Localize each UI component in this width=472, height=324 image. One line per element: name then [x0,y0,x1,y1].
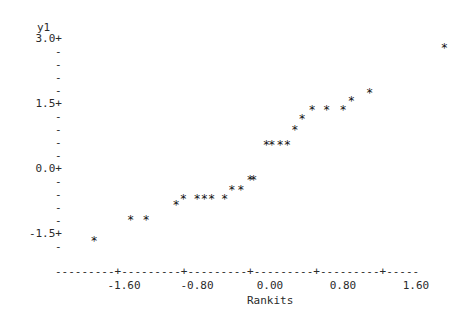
x-axis-rule: ---------+---------+---------+---------+… [55,266,419,277]
data-point: * [237,185,244,196]
data-point: * [228,185,235,196]
data-point: * [142,215,149,226]
data-point: * [441,43,448,54]
y-tick-minor-1-2: - [55,124,62,135]
x-axis-title: Rankits [247,295,293,306]
x-tick-1: -0.80 [180,280,213,291]
y-tick-minor-1-1: - [55,111,62,122]
x-tick-3: 0.80 [330,280,357,291]
x-tick-2: 0.00 [257,280,284,291]
data-point: * [221,194,228,205]
y-tick-minor-2-2: - [55,189,62,200]
y-tick-major-0: 3.0+ [0,33,62,44]
y-tick-major-1: 1.5+ [0,98,62,109]
y-tick-minor-0-4: - [55,85,62,96]
data-point: * [268,140,275,151]
data-point: * [127,215,134,226]
y-tick-minor-2-3: - [55,202,62,213]
rankit-plot-canvas: y13.0+----1.5+----0.0+-----1.5+---------… [0,0,472,324]
y-tick-minor-2-1: - [55,176,62,187]
data-point: * [348,96,355,107]
y-tick-minor-0-3: - [55,72,62,83]
y-tick-major-2: 0.0+ [0,163,62,174]
data-point: * [277,140,284,151]
y-tick-minor-0-1: - [55,46,62,57]
y-tick-minor-0-2: - [55,59,62,70]
data-point: * [323,105,330,116]
data-point: * [201,194,208,205]
y-tick-minor-1-3: - [55,137,62,148]
data-point: * [308,105,315,116]
data-point: * [284,140,291,151]
data-point: * [298,114,305,125]
data-point: * [250,175,257,186]
data-point: * [180,194,187,205]
x-tick-4: 1.60 [403,280,430,291]
y-tick-minor-tail: - [55,241,62,252]
data-point: * [173,200,180,211]
y-tick-major-3: -1.5+ [0,228,62,239]
data-point: * [340,105,347,116]
y-tick-minor-1-4: - [55,150,62,161]
y-tick-minor-2-4: - [55,215,62,226]
data-point: * [90,236,97,247]
data-point: * [208,194,215,205]
data-point: * [291,125,298,136]
x-tick-0: -1.60 [107,280,140,291]
data-point: * [366,88,373,99]
data-point: * [194,194,201,205]
